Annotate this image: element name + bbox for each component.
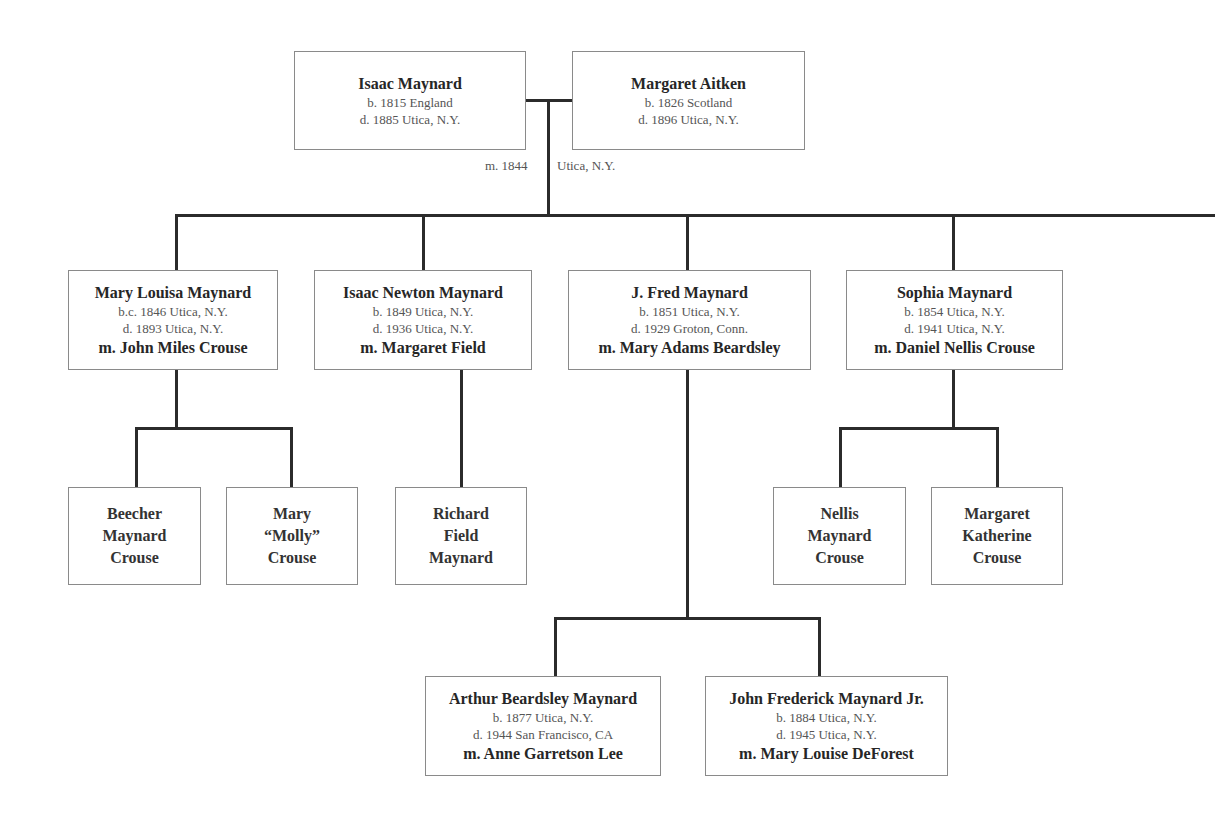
person-box-nellis-maynard-crouse: Nellis Maynard Crouse (773, 487, 906, 585)
person-box-margaret-aitken: Margaret Aitken b. 1826 Scotland d. 1896… (572, 51, 805, 150)
person-name: Beecher Maynard Crouse (103, 503, 167, 569)
person-name: Margaret Katherine Crouse (962, 503, 1031, 569)
marriage-place: Utica, N.Y. (557, 158, 615, 174)
person-name: Margaret Aitken (631, 74, 746, 94)
descent-line-isaac-newton (460, 370, 463, 487)
descent-line-sophia (952, 370, 955, 429)
death-info: d. 1941 Utica, N.Y. (904, 320, 1005, 337)
drop-line-arthur (554, 617, 557, 676)
person-name: John Frederick Maynard Jr. (729, 689, 924, 709)
person-box-mary-louisa-maynard: Mary Louisa Maynard b.c. 1846 Utica, N.Y… (68, 270, 278, 370)
drop-line-isaac-newton (422, 214, 425, 270)
person-name: Isaac Newton Maynard (343, 283, 503, 303)
descent-line-mary-louisa (175, 370, 178, 429)
person-name: Richard Field Maynard (429, 503, 493, 569)
birth-info: b.c. 1846 Utica, N.Y. (118, 303, 228, 320)
spouse-info: m. Mary Louise DeForest (739, 743, 914, 764)
death-info: d. 1896 Utica, N.Y. (638, 111, 739, 128)
death-info: d. 1945 Utica, N.Y. (776, 726, 877, 743)
sibling-bar-j-fred (554, 617, 821, 620)
person-name: Isaac Maynard (358, 74, 462, 94)
birth-info: b. 1884 Utica, N.Y. (776, 709, 877, 726)
spouse-info: m. Daniel Nellis Crouse (874, 337, 1035, 358)
death-info: d. 1893 Utica, N.Y. (123, 320, 224, 337)
person-name: Arthur Beardsley Maynard (449, 689, 637, 709)
descent-line-j-fred (686, 370, 689, 619)
birth-info: b. 1826 Scotland (645, 94, 733, 111)
drop-line-molly (290, 427, 293, 487)
birth-info: b. 1849 Utica, N.Y. (373, 303, 474, 320)
death-info: d. 1885 Utica, N.Y. (360, 111, 461, 128)
death-info: d. 1944 San Francisco, CA (473, 726, 613, 743)
drop-line-j-fred (686, 214, 689, 270)
person-box-john-frederick-maynard-jr: John Frederick Maynard Jr. b. 1884 Utica… (705, 676, 948, 776)
marriage-year: m. 1844 (485, 158, 528, 174)
spouse-info: m. Anne Garretson Lee (463, 743, 623, 764)
person-name: Mary Louisa Maynard (95, 283, 251, 303)
sibling-bar-crouse-mary-louisa (135, 427, 293, 430)
generation-2-sibling-bar (175, 214, 1215, 217)
spouse-info: m. John Miles Crouse (98, 337, 247, 358)
person-box-beecher-maynard-crouse: Beecher Maynard Crouse (68, 487, 201, 585)
drop-line-nellis (839, 427, 842, 487)
person-name: Nellis Maynard Crouse (808, 503, 872, 569)
person-box-richard-field-maynard: Richard Field Maynard (395, 487, 527, 585)
drop-line-mary-louisa (175, 214, 178, 270)
death-info: d. 1936 Utica, N.Y. (373, 320, 474, 337)
drop-line-sophia (952, 214, 955, 270)
person-box-isaac-newton-maynard: Isaac Newton Maynard b. 1849 Utica, N.Y.… (314, 270, 532, 370)
person-box-margaret-katherine-crouse: Margaret Katherine Crouse (931, 487, 1063, 585)
person-box-arthur-beardsley-maynard: Arthur Beardsley Maynard b. 1877 Utica, … (425, 676, 661, 776)
person-box-mary-molly-crouse: Mary “Molly” Crouse (226, 487, 358, 585)
drop-line-margaret-katherine (996, 427, 999, 487)
birth-info: b. 1851 Utica, N.Y. (639, 303, 740, 320)
person-name: Mary “Molly” Crouse (264, 503, 320, 569)
person-box-sophia-maynard: Sophia Maynard b. 1854 Utica, N.Y. d. 19… (846, 270, 1063, 370)
person-box-isaac-maynard: Isaac Maynard b. 1815 England d. 1885 Ut… (294, 51, 526, 150)
birth-info: b. 1877 Utica, N.Y. (493, 709, 594, 726)
person-box-j-fred-maynard: J. Fred Maynard b. 1851 Utica, N.Y. d. 1… (568, 270, 811, 370)
birth-info: b. 1854 Utica, N.Y. (904, 303, 1005, 320)
birth-info: b. 1815 England (367, 94, 453, 111)
spouse-info: m. Margaret Field (360, 337, 485, 358)
drop-line-beecher (135, 427, 138, 487)
root-descent-line (547, 99, 550, 216)
person-name: J. Fred Maynard (631, 283, 748, 303)
person-name: Sophia Maynard (897, 283, 1012, 303)
sibling-bar-sophia (839, 427, 999, 430)
drop-line-john-frederick-jr (818, 617, 821, 676)
spouse-info: m. Mary Adams Beardsley (598, 337, 780, 358)
death-info: d. 1929 Groton, Conn. (631, 320, 748, 337)
